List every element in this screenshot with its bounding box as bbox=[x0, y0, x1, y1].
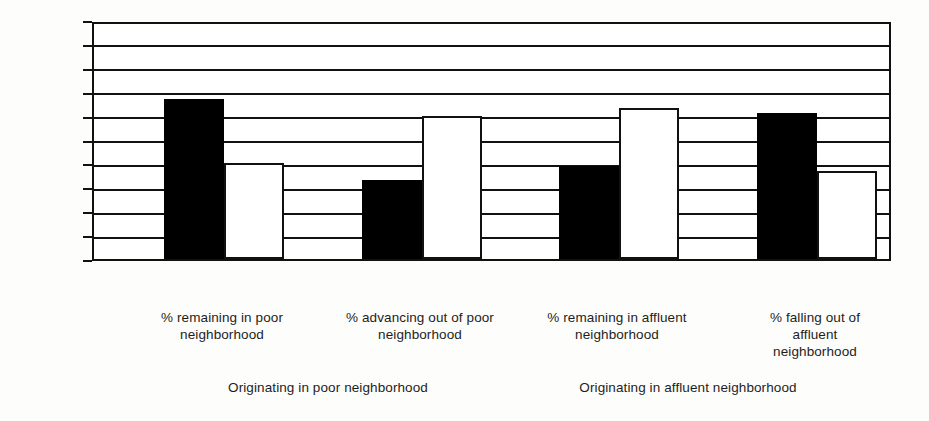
origin-caption: Originating in affluent neighborhood bbox=[579, 380, 796, 395]
y-axis-tick-mark bbox=[83, 236, 92, 238]
bar-4-white bbox=[817, 171, 877, 259]
bar-4-black bbox=[757, 113, 817, 259]
group-caption-line: % advancing out of poor bbox=[325, 309, 515, 326]
group-caption-line: neighborhood bbox=[522, 326, 712, 343]
bar-3-black bbox=[559, 166, 619, 259]
y-axis bbox=[0, 0, 92, 421]
bar-chart: % remaining in poorneighborhood% advanci… bbox=[0, 0, 929, 421]
group-caption: % remaining in affluentneighborhood bbox=[522, 309, 712, 343]
bar-1-black bbox=[164, 99, 224, 259]
y-axis-tick-mark bbox=[83, 45, 92, 47]
y-axis-tick-mark bbox=[83, 188, 92, 190]
bars-layer bbox=[94, 24, 889, 259]
bar-2-white bbox=[422, 116, 482, 259]
y-axis-tick-mark bbox=[83, 260, 92, 262]
y-axis-tick-mark bbox=[83, 117, 92, 119]
y-axis-tick-mark bbox=[83, 141, 92, 143]
group-caption: % falling out ofaffluentneighborhood bbox=[720, 309, 910, 360]
group-caption-line: neighborhood bbox=[325, 326, 515, 343]
y-axis-tick-mark bbox=[83, 21, 92, 23]
group-caption-line: % falling out of bbox=[720, 309, 910, 326]
group-caption-line: neighborhood bbox=[720, 343, 910, 360]
group-caption: % remaining in poorneighborhood bbox=[127, 309, 317, 343]
bar-2-black bbox=[362, 180, 422, 259]
bar-3-white bbox=[619, 108, 679, 259]
group-caption-line: neighborhood bbox=[127, 326, 317, 343]
group-caption: % advancing out of poorneighborhood bbox=[325, 309, 515, 343]
group-caption-line: % remaining in affluent bbox=[522, 309, 712, 326]
y-axis-tick-mark bbox=[83, 212, 92, 214]
bar-1-white bbox=[224, 163, 284, 259]
y-axis-tick-mark bbox=[83, 69, 92, 71]
group-caption-line: affluent bbox=[720, 326, 910, 343]
y-axis-tick-mark bbox=[83, 93, 92, 95]
origin-caption: Originating in poor neighborhood bbox=[228, 380, 428, 395]
y-axis-tick-mark bbox=[83, 164, 92, 166]
group-caption-line: % remaining in poor bbox=[127, 309, 317, 326]
plot-area bbox=[92, 22, 891, 261]
